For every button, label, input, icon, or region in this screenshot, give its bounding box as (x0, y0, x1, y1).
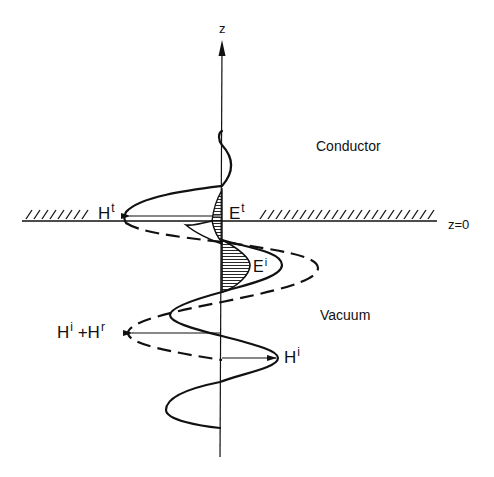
e-transmitted-label: Et (229, 203, 245, 222)
z-axis-label: z (219, 22, 226, 35)
surface-label: z=0 (448, 218, 469, 231)
h-incident-base: H (284, 348, 296, 367)
h-total-label: Hi +Hr (57, 322, 105, 341)
h-transmitted-sup: t (111, 201, 114, 215)
h-total-sup2: r (101, 320, 105, 334)
h-total-base2: H (88, 323, 100, 342)
h-transmitted-label: Ht (98, 203, 115, 222)
surface-hatching-right (260, 210, 434, 219)
conductor-label: Conductor (316, 139, 381, 153)
e-incident-base: E (253, 258, 264, 275)
h-incident-label: Hi (284, 347, 300, 366)
h-incident-sup: i (297, 345, 300, 359)
field-diagram (0, 0, 494, 477)
h-transmitted-base: H (98, 204, 110, 223)
h-total-base1: H (57, 323, 69, 342)
e-incident-label: Ei (253, 257, 267, 275)
surface-hatching-left (26, 210, 88, 219)
h-total-plus: + (73, 323, 88, 342)
z-axis-arrow-icon (219, 40, 226, 56)
e-transmitted-base: E (229, 204, 240, 223)
vacuum-label: Vacuum (320, 308, 370, 322)
e-transmitted-sup: t (241, 201, 244, 215)
e-transmitted-curve (186, 190, 222, 244)
e-incident-sup: i (265, 256, 268, 268)
